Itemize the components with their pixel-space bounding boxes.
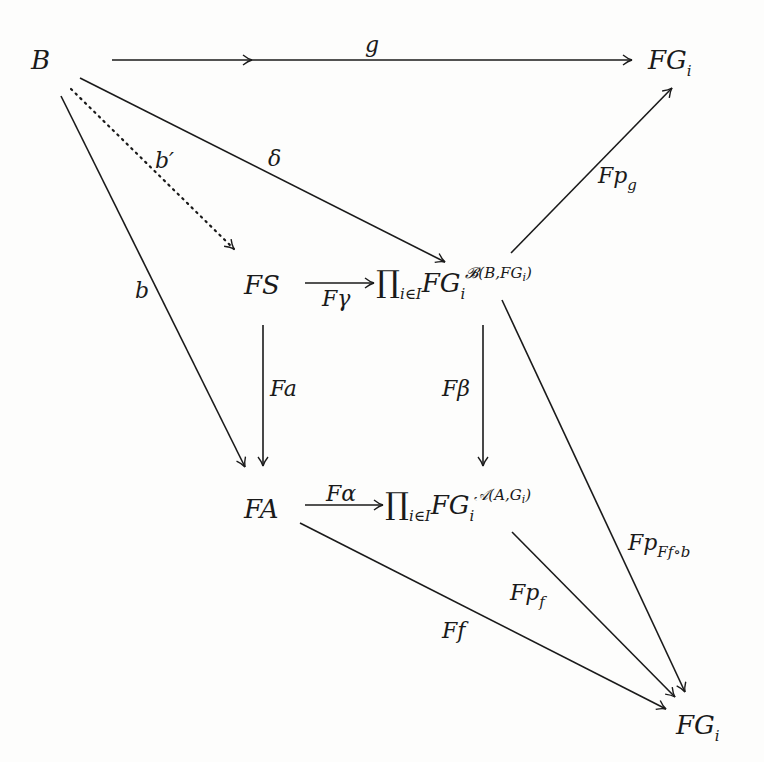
label-delta: δ xyxy=(268,148,281,170)
product-superscript: 𝓑(B,FGi) xyxy=(465,264,531,282)
sup-text: 𝒜(A,G xyxy=(474,486,521,504)
node-FS-label: FS xyxy=(244,270,280,300)
label-Fp-f-base: Fp xyxy=(510,580,539,605)
product-sub: i xyxy=(470,507,475,525)
commutative-diagram xyxy=(0,0,764,762)
node-FA: FA xyxy=(244,496,279,522)
label-Fp-Ffob-base: Fp xyxy=(628,530,657,555)
label-b: b xyxy=(135,280,149,302)
node-FA-label: FA xyxy=(244,494,279,524)
arrow-Ff xyxy=(300,523,666,709)
product-symbol: ∏ xyxy=(385,486,409,521)
node-B: B xyxy=(31,47,50,73)
product-index: i∈I xyxy=(409,507,431,525)
label-b-text: b xyxy=(135,278,149,303)
product-base: FG xyxy=(431,490,470,520)
label-delta-text: δ xyxy=(268,146,281,171)
label-Fp-Ffob: FpFf∘b xyxy=(628,532,690,560)
label-b-prime-text: b′ xyxy=(155,148,174,173)
label-Fa: Fa xyxy=(270,378,297,400)
node-FS: FS xyxy=(244,272,280,298)
product-index: i∈I xyxy=(400,285,422,303)
product-superscript: 𝒜(A,Gi) xyxy=(474,486,531,504)
sup-close: ) xyxy=(525,486,531,504)
product-base: FG xyxy=(422,268,461,298)
label-F-gamma-text: Fγ xyxy=(322,286,350,311)
node-FG-top-base: FG xyxy=(648,45,687,75)
node-product-top: ∏i∈IFGi𝓑(B,FGi) xyxy=(376,266,532,302)
node-FG-bottom: FGi xyxy=(676,712,720,744)
node-B-label: B xyxy=(31,45,50,75)
label-g: g xyxy=(365,34,379,56)
label-F-beta: Fβ xyxy=(442,378,470,400)
sup-text: 𝓑(B,FG xyxy=(465,264,522,282)
sup-close: ) xyxy=(526,264,532,282)
label-Fp-g-base: Fp xyxy=(598,163,627,188)
node-FG-bottom-base: FG xyxy=(676,710,715,740)
label-F-beta-text: Fβ xyxy=(442,376,470,401)
node-FG-top-sub: i xyxy=(687,62,692,80)
label-Fp-Ffob-sub: Ff∘b xyxy=(657,543,690,561)
label-g-text: g xyxy=(365,32,379,57)
label-F-alpha-text: Fα xyxy=(326,481,356,506)
label-b-prime: b′ xyxy=(155,150,174,172)
label-Fp-g-sub: g xyxy=(627,176,637,194)
label-F-alpha: Fα xyxy=(326,483,356,505)
label-Fp-f-sub: f xyxy=(539,593,545,611)
product-sub: i xyxy=(461,285,466,303)
arrow-Fp-g xyxy=(511,88,672,253)
node-FG-bottom-sub: i xyxy=(715,727,720,745)
label-Fa-text: Fa xyxy=(270,376,297,401)
label-Fp-f: Fpf xyxy=(510,582,545,610)
label-Fp-g: Fpg xyxy=(598,165,637,193)
node-FG-top: FGi xyxy=(648,47,692,79)
arrow-b-prime xyxy=(71,89,234,249)
label-F-gamma: Fγ xyxy=(322,288,350,310)
node-product-bottom: ∏i∈IFGi𝒜(A,Gi) xyxy=(385,488,531,524)
product-symbol: ∏ xyxy=(376,264,400,299)
arrow-b xyxy=(61,96,245,467)
arrow-delta xyxy=(80,78,445,262)
label-Ff: Ff xyxy=(442,620,465,642)
label-Ff-text: Ff xyxy=(442,618,465,643)
